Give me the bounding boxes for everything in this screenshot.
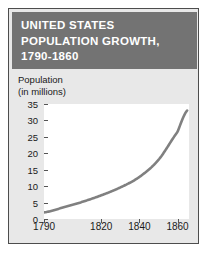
y-tick-label: 5 <box>33 197 38 208</box>
y-tick-label: 30 <box>27 115 38 126</box>
population-growth-line <box>44 104 189 219</box>
y-tick-label: 25 <box>27 131 38 142</box>
chart-panel: Population (in millions) 35302520151050 … <box>12 71 197 242</box>
title-line-2: POPULATION GROWTH, <box>21 34 197 50</box>
title-line-3: 1790-1860 <box>21 49 197 65</box>
plot-area <box>44 104 189 219</box>
x-tick-mark <box>178 219 179 223</box>
y-axis-title-line-1: Population <box>18 74 66 86</box>
y-tick-label: 35 <box>27 99 38 110</box>
y-tick-label: 15 <box>27 164 38 175</box>
y-tick-mark <box>44 186 48 187</box>
y-tick-mark <box>44 203 48 204</box>
y-axis-title: Population (in millions) <box>18 74 66 97</box>
y-axis-title-line-2: (in millions) <box>18 86 66 98</box>
x-tick-mark <box>101 219 102 223</box>
chart-title-banner: UNITED STATES POPULATION GROWTH, 1790-18… <box>12 12 197 69</box>
y-tick-mark <box>44 104 48 105</box>
x-tick-mark <box>139 219 140 223</box>
y-tick-label: 10 <box>27 181 38 192</box>
y-tick-mark <box>44 153 48 154</box>
y-axis-tick-labels: 35302520151050 <box>12 104 41 219</box>
title-line-1: UNITED STATES <box>21 18 197 34</box>
x-axis-tick-labels: 1790182018401860 <box>12 221 197 237</box>
y-tick-mark <box>44 170 48 171</box>
y-tick-label: 20 <box>27 148 38 159</box>
y-tick-mark <box>44 137 48 138</box>
y-tick-mark <box>44 120 48 121</box>
figure-frame: UNITED STATES POPULATION GROWTH, 1790-18… <box>8 8 199 244</box>
x-tick-mark <box>44 219 45 223</box>
